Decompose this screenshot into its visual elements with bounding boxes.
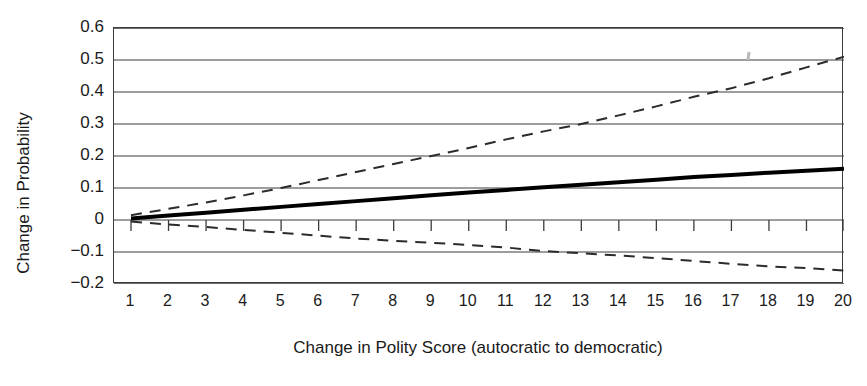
y-tick-label: 0.2 <box>80 145 104 165</box>
x-tick-label: 6 <box>313 292 322 310</box>
series-line-2 <box>131 222 844 271</box>
series-line-0 <box>131 169 844 219</box>
y-tick-label: −0.1 <box>70 241 104 261</box>
x-tick-label: 5 <box>276 292 285 310</box>
y-tick-label: 0.1 <box>80 177 104 197</box>
y-tick-label: 0.6 <box>80 17 104 37</box>
plot-svg <box>114 28 844 284</box>
plot-area <box>113 27 843 283</box>
x-tick-label: 16 <box>684 292 702 310</box>
x-tick-label: 13 <box>571 292 589 310</box>
x-tick-label: 12 <box>534 292 552 310</box>
x-tick-label: 15 <box>646 292 664 310</box>
y-tick-label: 0 <box>95 209 104 229</box>
x-tick-label: 18 <box>759 292 777 310</box>
y-tick-label: 0.3 <box>80 113 104 133</box>
y-axis-tick-labels: 0.60.50.40.30.20.10−0.1−0.2 <box>0 0 112 386</box>
x-tick-label: 1 <box>126 292 135 310</box>
x-tick-label: 20 <box>834 292 852 310</box>
x-tick-label: 2 <box>163 292 172 310</box>
x-axis-tickmarks <box>131 220 844 231</box>
x-axis-tick-labels: 1234567891011121314151617181920 <box>113 292 843 322</box>
chart-figure: Change in Probability 0.60.50.40.30.20.1… <box>0 0 867 386</box>
y-tick-label: −0.2 <box>70 273 104 293</box>
x-tick-label: 10 <box>459 292 477 310</box>
x-tick-label: 17 <box>722 292 740 310</box>
x-axis-title: Change in Polity Score (autocratic to de… <box>113 338 843 358</box>
y-tick-label: 0.5 <box>80 49 104 69</box>
x-tick-label: 11 <box>497 292 514 310</box>
x-tick-label: 8 <box>388 292 397 310</box>
x-tick-label: 7 <box>351 292 360 310</box>
data-series-layer <box>131 57 844 271</box>
x-tick-label: 3 <box>201 292 210 310</box>
x-tick-label: 14 <box>609 292 627 310</box>
x-tick-label: 9 <box>426 292 435 310</box>
x-tick-label: 4 <box>238 292 247 310</box>
x-tick-label: 19 <box>797 292 815 310</box>
y-tick-label: 0.4 <box>80 81 104 101</box>
